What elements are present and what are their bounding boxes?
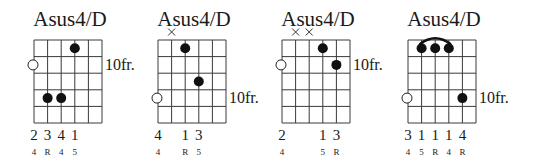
open-circle-marker (276, 60, 286, 70)
interval-label: 5 (197, 147, 202, 157)
finger-dot (43, 93, 53, 103)
interval-label: 4 (280, 147, 285, 157)
finger-dot (444, 43, 454, 53)
fretboard-grid (158, 40, 226, 123)
chord-title: Asus4/D (33, 7, 107, 31)
finger-number: 1 (71, 127, 79, 143)
interval-label: R (182, 147, 188, 157)
finger-number: 2 (30, 127, 38, 143)
finger-number: 1 (431, 127, 439, 143)
finger-number: 1 (319, 127, 327, 143)
chord-diagram: Asus4/D10fr.23414R45 (28, 7, 135, 157)
finger-number: 4 (459, 127, 467, 143)
interval-label: 5 (419, 147, 424, 157)
finger-dot (457, 93, 467, 103)
chord-diagram: Asus4/D10fr.4134R5 (152, 7, 259, 157)
fretboard-grid (282, 40, 350, 123)
fret-position-label: 10fr. (479, 89, 509, 106)
fretboard-grid (34, 40, 102, 123)
finger-number: 2 (278, 127, 286, 143)
fret-position-label: 10fr. (105, 56, 135, 73)
finger-number: 1 (445, 127, 453, 143)
chord-title: Asus4/D (281, 7, 355, 31)
interval-label: 4 (406, 147, 411, 157)
interval-label: 4 (59, 147, 64, 157)
interval-label: 5 (321, 147, 326, 157)
finger-dot (318, 43, 328, 53)
chord-title: Asus4/D (407, 7, 481, 31)
finger-dot (70, 43, 80, 53)
open-circle-marker (152, 93, 162, 103)
open-circle-marker (28, 60, 38, 70)
finger-dot (430, 43, 440, 53)
finger-number: 3 (404, 127, 412, 143)
interval-label: 4 (32, 147, 37, 157)
interval-label: 4 (447, 147, 452, 157)
finger-dot (417, 43, 427, 53)
fret-position-label: 10fr. (229, 89, 259, 106)
finger-number: 1 (181, 127, 189, 143)
open-circle-marker (402, 93, 412, 103)
finger-dot (331, 60, 341, 70)
chord-diagrams: Asus4/D10fr.23414R45Asus4/D10fr.4134R5As… (0, 0, 533, 165)
interval-label: 5 (73, 147, 78, 157)
finger-number: 3 (44, 127, 52, 143)
fretboard-grid (408, 40, 476, 123)
finger-number: 4 (57, 127, 65, 143)
chord-diagram: Asus4/D10fr.21345R (276, 7, 383, 157)
chord-title: Asus4/D (157, 7, 231, 31)
finger-number: 3 (195, 127, 203, 143)
interval-label: R (432, 147, 438, 157)
finger-number: 4 (154, 127, 162, 143)
finger-number: 3 (333, 127, 341, 143)
interval-label: R (45, 147, 51, 157)
finger-dot (180, 43, 190, 53)
finger-dot (56, 93, 66, 103)
interval-label: R (333, 147, 339, 157)
finger-dot (194, 77, 204, 87)
interval-label: 4 (156, 147, 161, 157)
chord-diagram: Asus4/D10fr.3111445R4R (402, 7, 509, 157)
fret-position-label: 10fr. (353, 56, 383, 73)
finger-number: 1 (418, 127, 426, 143)
interval-label: R (459, 147, 465, 157)
